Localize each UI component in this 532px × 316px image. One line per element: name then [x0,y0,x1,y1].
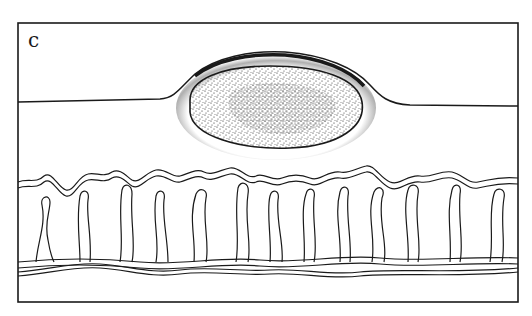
basal-vessel-plexus [18,257,518,277]
capillary-loops [36,183,504,262]
panel-label: c [28,30,39,50]
illustration-figure: c [0,0,532,316]
drawing-canvas [0,0,532,316]
wavy-boundary [18,166,518,196]
